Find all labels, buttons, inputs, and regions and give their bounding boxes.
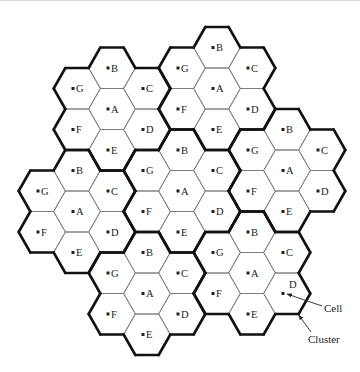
cell-label-f: F bbox=[181, 104, 187, 115]
cell-label-a: A bbox=[286, 165, 294, 176]
cluster-6-border bbox=[159, 232, 171, 253]
cluster-1-border bbox=[89, 48, 101, 69]
cell-label-a: A bbox=[76, 206, 84, 217]
cluster-6-border bbox=[124, 335, 136, 356]
cell-label-b: B bbox=[111, 63, 118, 74]
cell-label-g: G bbox=[181, 63, 189, 74]
cell-label-g: G bbox=[111, 268, 119, 279]
cell-center-dot bbox=[247, 313, 250, 316]
cluster-6-border bbox=[89, 273, 101, 294]
cell-label-e: E bbox=[216, 124, 222, 135]
cell-label-e: E bbox=[181, 227, 187, 238]
cluster-5-border bbox=[124, 171, 136, 192]
cell-center-dot bbox=[212, 46, 215, 49]
cell-label-b: B bbox=[181, 145, 188, 156]
cluster-2-border bbox=[264, 48, 276, 69]
cluster-3-border bbox=[334, 150, 346, 171]
cluster-7-border bbox=[194, 294, 206, 315]
cell-center-dot bbox=[246, 108, 249, 111]
cluster-4-border bbox=[19, 232, 31, 253]
cell-center-dot bbox=[212, 87, 215, 90]
cell-center-dot bbox=[211, 210, 214, 213]
cell-label-c: C bbox=[111, 186, 118, 197]
cluster-2-border bbox=[264, 68, 276, 89]
cluster-2-border bbox=[159, 109, 171, 130]
cell-center-dot bbox=[177, 108, 180, 111]
cell-center-dot bbox=[247, 190, 250, 193]
cell-center-dot bbox=[247, 231, 250, 234]
cell-center-dot bbox=[176, 272, 179, 275]
cell-label-f: F bbox=[41, 227, 47, 238]
cell-center-dot bbox=[72, 87, 75, 90]
cell-center-dot bbox=[316, 190, 319, 193]
cluster-6-border bbox=[124, 232, 136, 253]
cell-label-g: G bbox=[76, 83, 84, 94]
cell-label-b: B bbox=[146, 247, 153, 258]
cell-center-dot bbox=[142, 169, 145, 172]
cell-label-g: G bbox=[216, 247, 224, 258]
cluster-annotation-label: Cluster bbox=[308, 333, 340, 345]
cell-center-dot bbox=[72, 251, 75, 254]
cell-label-e: E bbox=[146, 329, 152, 340]
cluster-7-border bbox=[299, 253, 311, 274]
cell-label-d: D bbox=[321, 186, 329, 197]
cell-center-dot bbox=[37, 190, 40, 193]
cluster-2-border bbox=[229, 27, 241, 48]
cluster-4-border bbox=[19, 212, 31, 233]
cell-label-a: A bbox=[111, 104, 119, 115]
cluster-7-border bbox=[229, 212, 241, 233]
cluster-2-border bbox=[194, 27, 206, 48]
cell-label-b: B bbox=[286, 124, 293, 135]
cell-label-b: B bbox=[251, 227, 258, 238]
cluster-7-border bbox=[194, 232, 206, 253]
cell-center-dot bbox=[281, 251, 284, 254]
cluster-3-border bbox=[334, 171, 346, 192]
cell-center-dot bbox=[141, 128, 144, 131]
cell-center-dot bbox=[141, 87, 144, 90]
cell-label-e: E bbox=[286, 206, 292, 217]
cluster-2-border bbox=[159, 68, 171, 89]
cell-annotation-label: Cell bbox=[324, 302, 342, 314]
cell-center-dot bbox=[37, 231, 40, 234]
cluster-5-border bbox=[229, 191, 241, 212]
cluster-3-border bbox=[264, 109, 276, 130]
cluster-1-border bbox=[124, 48, 136, 69]
cell-center-dot bbox=[316, 149, 319, 152]
cluster-4-border bbox=[54, 150, 66, 171]
cell-label-c: C bbox=[146, 83, 153, 94]
cell-center-dot bbox=[107, 272, 110, 275]
cluster-7-border bbox=[299, 294, 311, 315]
cell-label-c: C bbox=[251, 63, 258, 74]
cell-label-a: A bbox=[251, 268, 259, 279]
cluster-6-border bbox=[159, 335, 171, 356]
cluster-1-border bbox=[54, 130, 66, 151]
cluster-1-border bbox=[54, 109, 66, 130]
cell-label-c: C bbox=[181, 268, 188, 279]
cell-center-dot bbox=[177, 190, 180, 193]
cell-label-f: F bbox=[251, 186, 257, 197]
cell-label-f: F bbox=[216, 288, 222, 299]
cluster-2-border bbox=[159, 89, 171, 110]
cell-center-dot bbox=[106, 231, 109, 234]
cell-center-dot bbox=[106, 190, 109, 193]
cell-center-dot bbox=[107, 67, 110, 70]
cell-center-dot bbox=[246, 67, 249, 70]
cell-center-dot bbox=[212, 251, 215, 254]
cluster-5-border bbox=[159, 130, 171, 151]
cell-center-dot bbox=[72, 128, 75, 131]
cell-center-dot bbox=[282, 128, 285, 131]
cluster-1-border bbox=[54, 89, 66, 110]
cluster-5-border bbox=[124, 191, 136, 212]
cell-center-dot bbox=[177, 67, 180, 70]
cell-center-dot bbox=[281, 292, 284, 295]
cluster-2-border bbox=[264, 89, 276, 110]
cell-label-g: G bbox=[146, 165, 154, 176]
cluster-5-border bbox=[124, 150, 136, 171]
cell-center-dot bbox=[247, 149, 250, 152]
cluster-6-border bbox=[194, 314, 206, 335]
cell-label-c: C bbox=[286, 247, 293, 258]
cell-center-dot bbox=[72, 210, 75, 213]
cell-label-f: F bbox=[146, 206, 152, 217]
cluster-6-border bbox=[89, 294, 101, 315]
cell-center-dot bbox=[211, 169, 214, 172]
